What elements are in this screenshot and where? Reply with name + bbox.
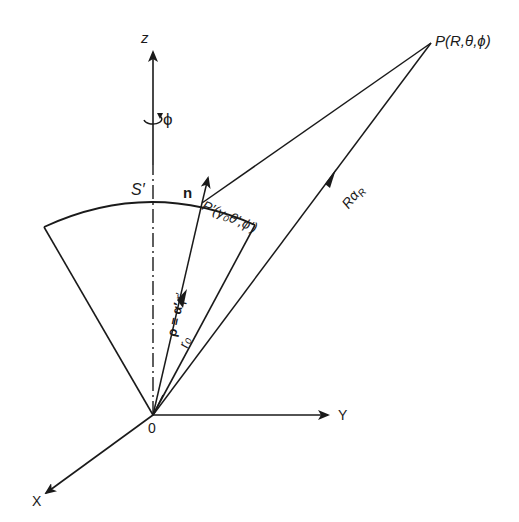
z-axis-label: z	[141, 30, 149, 45]
x-axis-label: X	[32, 494, 41, 508]
spherical-sector	[44, 202, 255, 415]
surface-label: S′	[131, 182, 145, 198]
diagram-canvas	[0, 0, 519, 522]
source-to-field-line	[202, 43, 431, 203]
normal-label: n	[183, 185, 192, 200]
phi-label: ϕ	[163, 111, 173, 128]
field-vector	[153, 43, 431, 415]
origin-label: 0	[148, 421, 156, 435]
diagram: z ϕ S′ n P′(γ₀θ′,ϕ′) P(R,θ,ϕ) RαR ρ = α′…	[0, 0, 519, 522]
field-point-label: P(R,θ,ϕ)	[435, 33, 491, 48]
y-axis-label: Y	[338, 408, 347, 422]
origin-fan-lines	[153, 395, 163, 415]
x-axis	[46, 415, 153, 493]
